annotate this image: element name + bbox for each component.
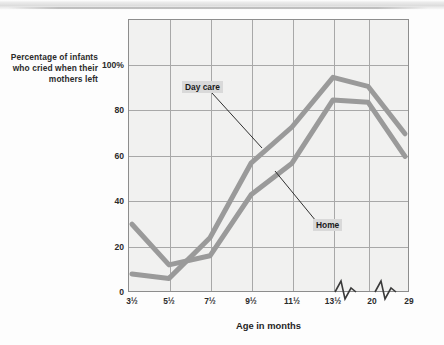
x-tick-11h: 11½ — [284, 296, 300, 306]
axis-break-marks — [0, 0, 444, 345]
x-axis-title: Age in months — [128, 320, 409, 331]
x-tick-7h: 7½ — [204, 296, 216, 306]
x-tick-29: 29 — [404, 296, 413, 306]
x-tick-9h: 9½ — [245, 296, 257, 306]
line-chart-figure: Percentage of infants who cried when the… — [0, 0, 444, 345]
x-tick-3h: 3½ — [126, 296, 138, 306]
x-tick-5h: 5½ — [163, 296, 175, 306]
x-tick-13h: 13½ — [325, 296, 341, 306]
x-axis-tick-labels: 3½ 5½ 7½ 9½ 11½ 13½ 20 29 — [0, 296, 444, 312]
x-tick-20: 20 — [367, 296, 376, 306]
